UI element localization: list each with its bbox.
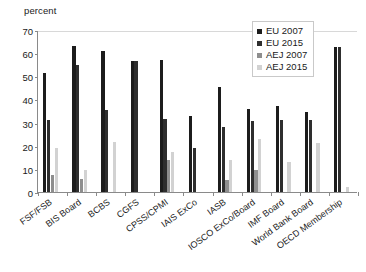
y-axis-tick-mark [35,170,39,171]
bar [258,139,261,192]
legend-swatch-icon [257,41,262,46]
bar [113,142,116,192]
legend-swatch-icon [257,53,262,58]
bar [101,51,104,192]
legend-item: EU 2015 [257,37,307,49]
bar [76,65,79,192]
bar [72,46,75,192]
legend-item: EU 2007 [257,25,307,37]
y-axis-title: percent [24,5,56,16]
bar [47,120,50,192]
bar [254,170,257,192]
bar [251,121,254,192]
y-axis-tick-mark [35,31,39,32]
legend-swatch-icon [257,29,262,34]
legend-item-label: AEJ 2007 [266,49,307,61]
bar [160,60,163,192]
y-axis-tick-mark [35,124,39,125]
legend-item: AEJ 2015 [257,61,307,73]
bar-chart: percent 010203040506070 EU 2007EU 2015AE… [0,0,366,272]
bar [134,61,137,192]
bar [55,148,58,192]
bar [51,175,54,192]
x-axis-tick-mark [38,192,39,196]
legend-item-label: EU 2015 [266,37,303,49]
bar [338,47,341,192]
legend-item-label: AEJ 2015 [266,61,307,73]
y-axis-tick-mark [35,77,39,78]
bar [171,152,174,193]
legend-item: AEJ 2007 [257,49,307,61]
bar [247,109,250,192]
bar [43,73,46,192]
bar [131,61,134,192]
chart-legend: EU 2007EU 2015AEJ 2007AEJ 2015 [252,21,314,77]
y-axis-tick-mark [35,54,39,55]
bar [167,160,170,192]
legend-swatch-icon [257,65,262,70]
legend-item-label: EU 2007 [266,25,303,37]
y-axis-tick-mark [35,147,39,148]
bar [229,160,232,192]
bar [334,47,337,192]
y-axis-tick-mark [35,100,39,101]
bar [163,119,166,192]
